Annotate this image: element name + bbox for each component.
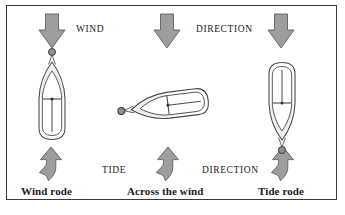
wind-arrow-center	[154, 14, 180, 48]
wind-arrow-right	[268, 14, 294, 48]
caption-across-the-wind: Across the wind	[127, 186, 203, 197]
caption-tide-rode: Tide rode	[258, 186, 304, 197]
label-tide-direction: DIRECTION	[202, 166, 259, 176]
caption-wind-rode: Wind rode	[21, 186, 72, 197]
boat-wind-rode	[39, 49, 65, 140]
label-wind: WIND	[76, 25, 104, 35]
diagram-canvas: WIND DIRECTION TIDE DIRECTION Wind rode …	[0, 0, 345, 215]
label-wind-direction: DIRECTION	[196, 25, 253, 35]
tide-arrow-left	[40, 147, 62, 181]
label-tide: TIDE	[102, 166, 126, 176]
tide-arrow-center	[157, 147, 179, 181]
diagram-graphics	[0, 0, 345, 215]
boat-across-the-wind	[116, 87, 209, 124]
wind-arrow-left	[39, 14, 65, 48]
boat-tide-rode	[269, 63, 295, 154]
